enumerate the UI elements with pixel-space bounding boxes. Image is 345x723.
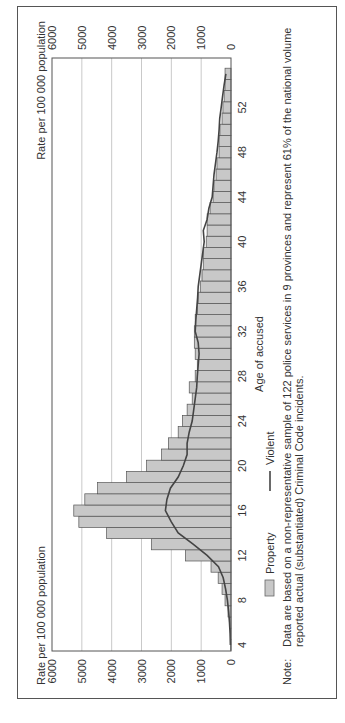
note-label: Note: [281, 659, 293, 685]
property-bar [182, 415, 231, 426]
property-bar [178, 427, 231, 438]
x-tick-label: 48 [236, 146, 248, 158]
y-tick-label-right: 2000 [165, 26, 177, 50]
property-bar [202, 270, 231, 281]
property-bar [203, 259, 231, 270]
property-bar [225, 79, 231, 90]
y-tick-label: 2000 [165, 659, 177, 683]
legend-property-swatch [265, 580, 274, 596]
property-bar [79, 516, 231, 527]
property-bar [219, 147, 231, 158]
property-bar [213, 191, 231, 202]
x-tick-label: 16 [236, 504, 248, 516]
y-tick-label-right: 4000 [106, 26, 118, 50]
y-tick-label-right: 5000 [76, 26, 88, 50]
y-tick-label: 6000 [46, 659, 58, 683]
property-bar [219, 135, 231, 146]
property-bar [151, 539, 231, 550]
age-crime-chart: Rate per 100 000 population Rate per 100… [17, 6, 337, 699]
x-tick-label: 24 [236, 415, 248, 427]
property-bar [194, 337, 231, 348]
property-bar [107, 527, 231, 538]
property-bar [98, 483, 231, 494]
property-bar [198, 292, 231, 303]
property-bar [210, 203, 231, 214]
property-bar [220, 124, 231, 135]
x-tick-label: 8 [236, 597, 248, 603]
y-tick-label-right: 6000 [46, 26, 58, 50]
property-bar [85, 494, 231, 505]
property-bar [224, 91, 231, 102]
x-tick-label: 28 [236, 370, 248, 382]
property-bar [197, 359, 231, 370]
y-tick-label-right: 1000 [195, 26, 207, 50]
property-bar [206, 236, 231, 247]
property-bar [222, 113, 231, 124]
property-bar [161, 449, 231, 460]
property-bar [200, 281, 231, 292]
property-bar [147, 460, 231, 471]
y-tick-label: 5000 [76, 659, 88, 683]
property-bar [223, 102, 231, 113]
property-bar [74, 505, 231, 516]
y-tick-label-right: 3000 [136, 26, 148, 50]
note-line-2: reported actual (substantiated) Criminal… [293, 376, 305, 647]
y-tick-label: 3000 [136, 659, 148, 683]
y-tick-label: 1000 [195, 659, 207, 683]
property-bar [197, 303, 231, 314]
x-tick-label: 4 [236, 642, 248, 648]
property-bar [195, 315, 231, 326]
property-bar [195, 371, 231, 382]
property-bar [194, 326, 231, 337]
x-tick-label: 32 [236, 325, 248, 337]
x-axis-title: Age of accused [253, 316, 265, 392]
property-bar [195, 348, 231, 359]
y-tick-label: 0 [225, 659, 237, 665]
property-bar [216, 169, 231, 180]
property-bar [217, 158, 231, 169]
x-tick-label: 52 [236, 101, 248, 113]
x-tick-label: 44 [236, 191, 248, 203]
x-tick-label: 36 [236, 280, 248, 292]
y-tick-label: 4000 [106, 659, 118, 683]
property-bar [207, 225, 231, 236]
x-tick-label: 20 [236, 460, 248, 472]
property-bar [203, 247, 231, 258]
y-tick-label-right: 0 [225, 44, 237, 50]
legend-violent-label: Violent [264, 432, 276, 465]
legend-property-label: Property [264, 532, 276, 574]
note-line-1: Data are based on a non-representative s… [281, 28, 293, 647]
x-tick-label: 40 [236, 236, 248, 248]
x-tick-label: 12 [236, 549, 248, 561]
chart-container: Rate per 100 000 population Rate per 100… [17, 6, 337, 699]
property-bar [207, 214, 231, 225]
property-bar [192, 393, 231, 404]
property-bar [214, 180, 231, 191]
property-bar [168, 438, 231, 449]
